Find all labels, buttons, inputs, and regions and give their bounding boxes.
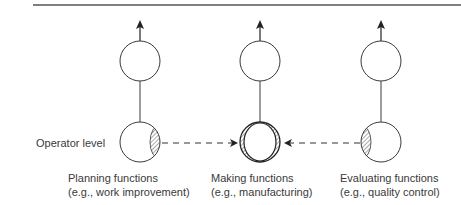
planning-example: (e.g., work improvement)	[68, 186, 190, 199]
making-example: (e.g., manufacturing)	[211, 186, 313, 199]
evaluating-title: Evaluating functions	[340, 172, 438, 185]
planning-title: Planning functions	[68, 172, 158, 185]
making-column	[240, 20, 280, 162]
planning-column	[120, 20, 170, 162]
upper-node	[361, 41, 401, 81]
making-title: Making functions	[211, 172, 294, 185]
operator-level-label: Operator level	[36, 137, 105, 150]
hatched-segment	[351, 125, 371, 159]
upper-node	[240, 41, 280, 81]
evaluating-example: (e.g., quality control)	[340, 186, 440, 199]
upper-node	[120, 41, 160, 81]
hatched-segment	[150, 125, 170, 159]
evaluating-column	[351, 20, 401, 162]
